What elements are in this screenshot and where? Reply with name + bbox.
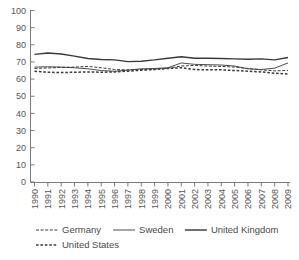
x-tick-label: 1998 — [137, 189, 147, 209]
x-tick-label: 2007 — [257, 189, 267, 209]
x-tick-label: 1997 — [123, 189, 133, 209]
y-tick-label: 80 — [16, 40, 26, 50]
y-tick-label: 50 — [16, 91, 26, 101]
y-axis-tick-labels: 0102030405060708090100 — [11, 6, 26, 188]
x-tick-label: 2002 — [190, 189, 200, 209]
line-chart: 0102030405060708090100 19901991199219931… — [0, 0, 299, 260]
x-tick-label: 1995 — [97, 189, 107, 209]
y-tick-label: 30 — [16, 126, 26, 136]
x-tick-label: 1991 — [43, 189, 53, 209]
x-tick-label: 2008 — [270, 189, 280, 209]
x-tick-label: 2003 — [203, 189, 213, 209]
x-tick-label: 2006 — [243, 189, 253, 209]
legend-label-germany: Germany — [62, 224, 101, 235]
chart-legend: GermanySwedenUnited KingdomUnited States — [36, 224, 279, 250]
y-tick-label: 40 — [16, 109, 26, 119]
chart-canvas: 0102030405060708090100 19901991199219931… — [0, 0, 299, 260]
y-tick-label: 70 — [16, 57, 26, 67]
y-tick-label: 0 — [21, 177, 26, 187]
x-tick-label: 2001 — [177, 189, 187, 209]
x-tick-label: 2004 — [217, 189, 227, 209]
y-tick-label: 90 — [16, 23, 26, 33]
y-axis-tick-marks — [31, 11, 35, 183]
y-tick-label: 100 — [11, 6, 26, 16]
x-tick-label: 2000 — [163, 189, 173, 209]
data-series-group — [35, 53, 289, 74]
x-tick-label: 1999 — [150, 189, 160, 209]
y-tick-label: 60 — [16, 74, 26, 84]
y-tick-label: 20 — [16, 143, 26, 153]
x-tick-label: 1992 — [57, 189, 67, 209]
x-axis-tick-marks — [35, 183, 289, 187]
legend-label-sweden: Sweden — [139, 224, 173, 235]
x-axis-tick-labels: 1990199119921993199419951996199719981999… — [30, 189, 294, 209]
x-tick-label: 2005 — [230, 189, 240, 209]
x-tick-label: 1990 — [30, 189, 40, 209]
x-tick-label: 1993 — [70, 189, 80, 209]
x-tick-label: 1994 — [83, 189, 93, 209]
y-tick-label: 10 — [16, 160, 26, 170]
legend-label-united-states: United States — [62, 239, 119, 250]
x-tick-label: 1996 — [110, 189, 120, 209]
series-line-united-kingdom — [35, 53, 289, 62]
x-tick-label: 2009 — [283, 189, 293, 209]
legend-label-united-kingdom: United Kingdom — [211, 224, 279, 235]
